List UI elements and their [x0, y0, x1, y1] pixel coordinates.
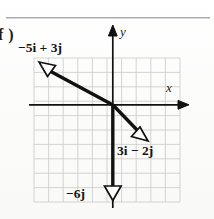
vector-label-v1: −5i + 3j [18, 40, 62, 56]
vector-v2 [113, 105, 148, 141]
y-axis-arrowhead [108, 25, 117, 36]
vector-label-v3: −6j [66, 186, 85, 202]
vector-label-v2: 3i − 2j [117, 143, 153, 159]
y-axis-label: y [120, 24, 126, 40]
vector-diagram [0, 0, 214, 219]
vector-v1 [39, 62, 113, 105]
grid [34, 58, 180, 202]
figure-canvas: f ) [0, 0, 214, 219]
x-axis-arrowhead [178, 100, 189, 109]
x-axis-label: x [166, 80, 172, 96]
